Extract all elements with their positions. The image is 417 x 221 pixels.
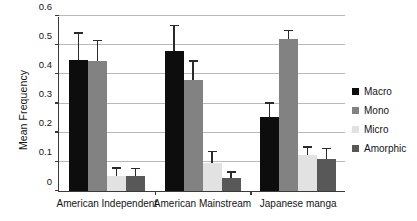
- bar: [317, 159, 336, 191]
- error-bar-cap: [170, 25, 179, 26]
- error-bar: [78, 34, 79, 60]
- error-bar-cap: [131, 168, 140, 169]
- y-tick-label: 0.1: [39, 146, 52, 157]
- legend-swatch-icon: [352, 107, 359, 114]
- bar: [298, 155, 317, 191]
- y-tick-mark: [55, 102, 59, 103]
- gridline: [59, 15, 345, 16]
- x-axis-label: Japanese manga: [260, 198, 337, 209]
- bar: [260, 117, 279, 191]
- gridline: [59, 44, 345, 45]
- legend-item: Micro: [352, 120, 406, 139]
- error-bar-cap: [112, 167, 121, 168]
- error-bar-cap: [284, 30, 293, 31]
- bar-chart: Mean Frequency 00.10.20.30.40.50.6 Ameri…: [0, 0, 417, 221]
- error-bar-cap: [265, 102, 274, 103]
- bar: [203, 163, 222, 191]
- error-bar-cap: [189, 60, 198, 61]
- plot-area: 00.10.20.30.40.50.6 American Independent…: [58, 17, 345, 192]
- error-bar: [288, 31, 289, 39]
- x-tick-mark: [155, 191, 156, 195]
- legend: MacroMonoMicroAmorphic: [352, 82, 406, 158]
- error-bar: [192, 62, 193, 80]
- error-bar: [269, 104, 270, 117]
- y-tick-mark: [55, 131, 59, 132]
- error-bar: [135, 169, 136, 176]
- legend-item: Macro: [352, 82, 406, 101]
- error-bar: [97, 41, 98, 61]
- error-bar-cap: [208, 151, 217, 152]
- error-bar-cap: [322, 148, 331, 149]
- y-tick-mark: [55, 15, 59, 16]
- y-tick-label: 0.2: [39, 117, 52, 128]
- error-bar-cap: [227, 171, 236, 172]
- legend-label: Macro: [364, 86, 392, 97]
- y-tick-label: 0.5: [39, 29, 52, 40]
- x-axis-label: American Independent: [57, 198, 158, 209]
- legend-swatch-icon: [352, 145, 359, 152]
- error-bar: [326, 149, 327, 159]
- x-tick-mark: [250, 191, 251, 195]
- bar: [88, 61, 107, 191]
- bar: [126, 176, 145, 191]
- error-bar-cap: [303, 146, 312, 147]
- legend-label: Mono: [364, 105, 389, 116]
- error-bar-cap: [93, 40, 102, 41]
- legend-swatch-icon: [352, 126, 359, 133]
- error-bar-cap: [74, 32, 83, 33]
- legend-swatch-icon: [352, 88, 359, 95]
- y-tick-label: 0.6: [39, 0, 52, 11]
- bar: [279, 39, 298, 191]
- error-bar: [230, 173, 231, 178]
- error-bar: [211, 152, 212, 163]
- y-tick-mark: [55, 73, 59, 74]
- x-axis-label: American Mainstream: [154, 198, 251, 209]
- y-axis-title: Mean Frequency: [17, 40, 29, 180]
- y-tick-mark: [55, 190, 59, 191]
- y-tick-mark: [55, 44, 59, 45]
- legend-item: Amorphic: [352, 139, 406, 158]
- legend-label: Amorphic: [364, 143, 406, 154]
- error-bar: [307, 148, 308, 155]
- bar: [184, 80, 203, 191]
- legend-item: Mono: [352, 101, 406, 120]
- y-tick-label: 0: [47, 175, 52, 186]
- error-bar: [173, 26, 174, 51]
- bar: [222, 178, 241, 191]
- legend-label: Micro: [364, 124, 388, 135]
- bar: [107, 176, 126, 191]
- y-tick-label: 0.3: [39, 88, 52, 99]
- y-tick-mark: [55, 161, 59, 162]
- error-bar: [116, 169, 117, 177]
- y-tick-label: 0.4: [39, 58, 52, 69]
- bar: [165, 51, 184, 191]
- bar: [69, 60, 88, 191]
